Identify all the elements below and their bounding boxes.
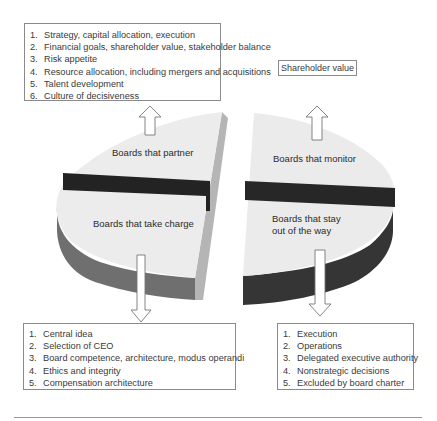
segment-label-stay-out: Boards that stay out of the way: [272, 213, 341, 236]
callout-take-charge: 1.Central idea 2.Selection of CEO 3.Boar…: [23, 323, 236, 390]
list-item: 4.Resource allocation, including mergers…: [30, 66, 220, 78]
segment-label-partner: Boards that partner: [112, 147, 193, 159]
callout-monitor: Shareholder value: [278, 60, 357, 76]
list-item: 1.Execution: [283, 328, 413, 340]
list-item: 2.Selection of CEO: [29, 340, 235, 352]
segment-label-stay-out-line1: Boards that stay: [272, 213, 341, 225]
list-item: 2.Operations: [283, 340, 413, 352]
list-item: 1.Strategy, capital allocation, executio…: [30, 29, 220, 41]
segment-label-monitor: Boards that monitor: [273, 153, 356, 165]
segment-label-take-charge: Boards that take charge: [93, 218, 194, 230]
list-item: 6.Culture of decisiveness: [30, 90, 220, 102]
list-item: 3.Risk appetite: [30, 53, 220, 65]
list-item: 1.Central idea: [29, 328, 235, 340]
list-item: 3.Board competence, architecture, modus …: [29, 352, 235, 364]
list-item: 5.Talent development: [30, 78, 220, 90]
list-item: 5.Excluded by board charter: [283, 377, 413, 389]
list-item: 2.Financial goals, shareholder value, st…: [30, 41, 220, 53]
callout-stay-out: 1.Execution 2.Operations 3.Delegated exe…: [277, 323, 414, 390]
list-item: 3.Delegated executive authority: [283, 352, 413, 364]
list-item: 4.Nonstrategic decisions: [283, 365, 413, 377]
list-item: 4.Ethics and integrity: [29, 365, 235, 377]
list-item: 5.Compensation architecture: [29, 377, 235, 389]
segment-label-stay-out-line2: out of the way: [272, 225, 341, 237]
bottom-divider: [14, 417, 422, 418]
callout-partner: 1.Strategy, capital allocation, executio…: [24, 23, 221, 101]
